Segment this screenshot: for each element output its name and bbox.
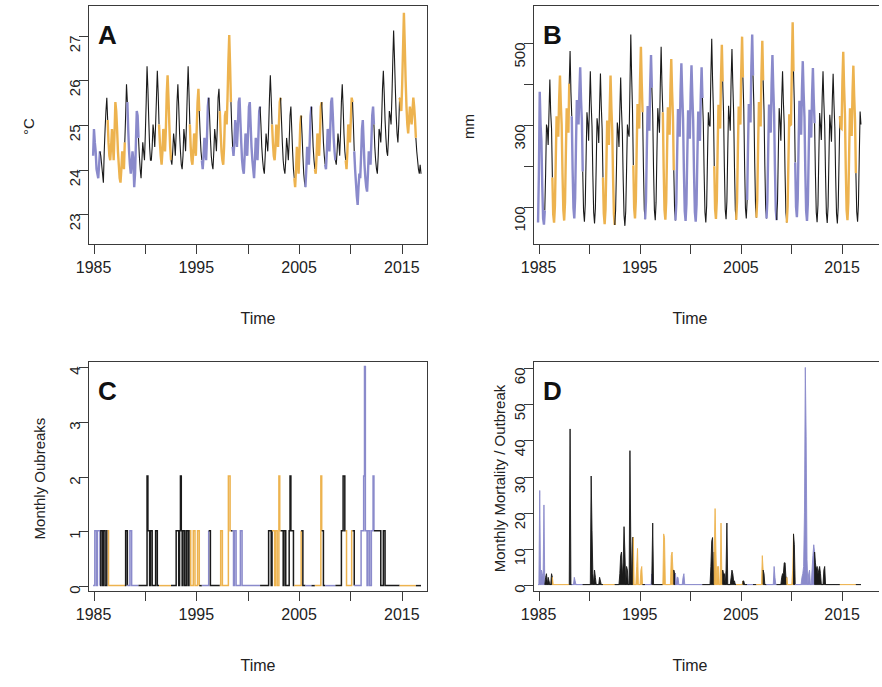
x-tick-label: 1995: [600, 606, 680, 624]
series-segment: [159, 75, 171, 164]
x-tick-mark: [350, 592, 351, 601]
series-segment: [260, 531, 272, 586]
y-tick-label: 60: [511, 367, 528, 407]
x-tick-label: 2015: [362, 259, 442, 277]
plot-area-a: [88, 5, 428, 245]
x-tick-mark: [791, 245, 792, 254]
series-segment: [260, 75, 272, 173]
series-segment: [233, 98, 260, 178]
series-segment: [108, 102, 125, 182]
series-segment: [645, 55, 652, 219]
x-axis-title-a: Time: [178, 310, 338, 328]
y-tick-label: 27: [66, 35, 83, 75]
series-segment: [569, 429, 572, 585]
series-segment: [777, 71, 787, 222]
series-segment: [714, 509, 722, 585]
series-segment: [663, 59, 674, 220]
panel-label-a: A: [98, 20, 117, 51]
x-tick-mark: [589, 592, 590, 601]
y-axis-title-b: mm: [460, 87, 477, 167]
series-segment: [100, 98, 108, 183]
series-segment: [416, 138, 421, 174]
x-tick-label: 1985: [499, 606, 579, 624]
x-tick-label: 1985: [54, 606, 134, 624]
x-tick-mark: [94, 245, 95, 254]
x-tick-mark: [402, 592, 403, 601]
series-segment: [202, 531, 209, 586]
series-segment: [325, 98, 335, 170]
series-segment: [322, 531, 325, 586]
x-tick-label: 2005: [259, 606, 339, 624]
series-segment: [753, 75, 756, 217]
series-segment: [702, 538, 714, 585]
series-segment: [675, 63, 702, 222]
series-segment: [652, 523, 663, 585]
series-segment: [815, 71, 840, 223]
x-tick-mark: [539, 245, 540, 254]
x-tick-mark: [299, 245, 300, 254]
series-segment: [281, 98, 295, 178]
series-segment: [233, 531, 260, 586]
x-tick-mark: [842, 592, 843, 601]
plot-area-d: [533, 361, 879, 592]
series-segment: [545, 574, 553, 585]
series-segment: [108, 531, 125, 586]
x-tick-mark: [299, 592, 300, 601]
x-tick-mark: [640, 245, 641, 254]
series-segment: [171, 66, 190, 169]
x-tick-label: 2015: [802, 606, 882, 624]
series-segment: [572, 67, 583, 218]
x-tick-label: 2005: [701, 259, 781, 277]
x-tick-mark: [196, 245, 197, 254]
series-segment: [633, 538, 642, 585]
y-tick-label: 4: [66, 366, 83, 406]
series-segment: [93, 129, 100, 178]
series-segment: [354, 107, 374, 205]
series-segment: [202, 98, 209, 170]
series-segment: [346, 98, 353, 170]
plot-area-c: [88, 361, 428, 592]
series-segment: [335, 84, 345, 165]
series-segment: [272, 98, 281, 161]
x-tick-label: 2005: [701, 606, 781, 624]
series-segment: [353, 102, 355, 151]
series-segment: [795, 61, 814, 221]
series-segment: [552, 577, 569, 584]
y-tick-label: 50: [511, 404, 528, 444]
y-tick-label: 30: [511, 476, 528, 516]
x-tick-label: 1985: [54, 259, 134, 277]
y-axis-title-d: Monthly Mortality / Outbreak: [491, 359, 508, 599]
series-segment: [322, 102, 325, 165]
x-tick-mark: [589, 245, 590, 254]
series-segment: [787, 534, 794, 585]
series-segment: [615, 451, 634, 585]
plot-area-b: [533, 5, 879, 245]
series-segment: [815, 552, 840, 585]
y-tick-label: 500: [511, 43, 528, 83]
x-tick-mark: [145, 592, 146, 601]
x-tick-mark: [741, 592, 742, 601]
series-segment: [795, 367, 814, 584]
x-tick-mark: [539, 592, 540, 601]
y-tick-label: 24: [66, 169, 83, 209]
x-tick-mark: [640, 592, 641, 601]
series-segment: [127, 102, 138, 187]
series-segment: [572, 577, 583, 584]
x-tick-mark: [690, 245, 691, 254]
series-segment: [777, 563, 787, 585]
y-tick-label: 40: [511, 440, 528, 480]
series-segment: [93, 531, 100, 586]
series-segment: [354, 366, 374, 585]
series-segment: [294, 531, 301, 586]
series-segment: [756, 41, 763, 218]
x-tick-mark: [350, 245, 351, 254]
series-segment: [767, 55, 777, 220]
series-segment: [583, 71, 603, 223]
series-segment: [615, 35, 634, 226]
y-tick-label: 1: [66, 531, 83, 571]
series-segment: [756, 556, 763, 585]
series-segment: [583, 476, 603, 585]
series-segment: [315, 476, 322, 586]
y-tick-label: 10: [511, 548, 528, 588]
